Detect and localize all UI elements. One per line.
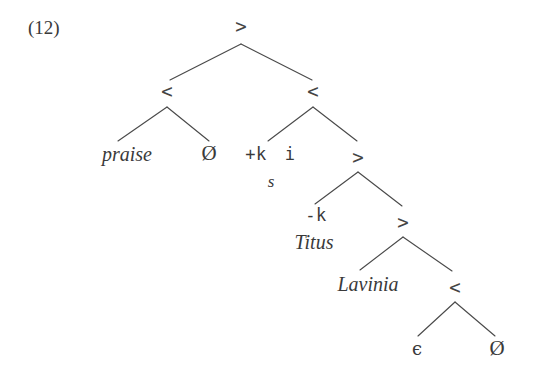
branch-leftmerge-right [167,107,209,141]
feature-minus-k: -k [305,207,326,224]
node-mid-move: > [352,148,363,167]
branch-bottommerge-left [418,302,455,336]
branch-leftmerge-left [118,107,167,141]
branch-rightmerge-left [268,107,313,141]
feature-i: i [285,146,296,163]
leaf-epsilon: ϵ [412,340,422,358]
branch-lowermove-right [403,237,452,271]
leaf-titus: Titus [295,232,334,252]
branch-bottommerge-right [455,302,495,336]
derivation-tree-figure: (12) > < < > > < praise Ø +k i s -k Titu… [0,0,534,377]
leaf-praise: praise [102,144,152,164]
branch-root-left [170,44,241,80]
node-right-merge: < [307,82,318,101]
branch-root-right [241,44,312,80]
branch-rightmerge-right [313,107,357,141]
branch-midmove-right [358,172,402,206]
leaf-empty-category-2: Ø [489,338,504,359]
branch-lowermove-left [360,237,403,270]
node-root-merge-right: > [235,17,246,36]
leaf-empty-category-1: Ø [201,143,216,164]
leaf-lavinia: Lavinia [337,274,398,294]
node-bottom-merge: < [449,278,460,297]
feature-plus-k: +k [245,146,266,163]
node-left-merge: < [161,82,172,101]
node-lower-move: > [397,213,408,232]
example-number: (12) [28,18,60,37]
trace-s: s [268,173,275,190]
branch-midmove-left [315,172,358,204]
